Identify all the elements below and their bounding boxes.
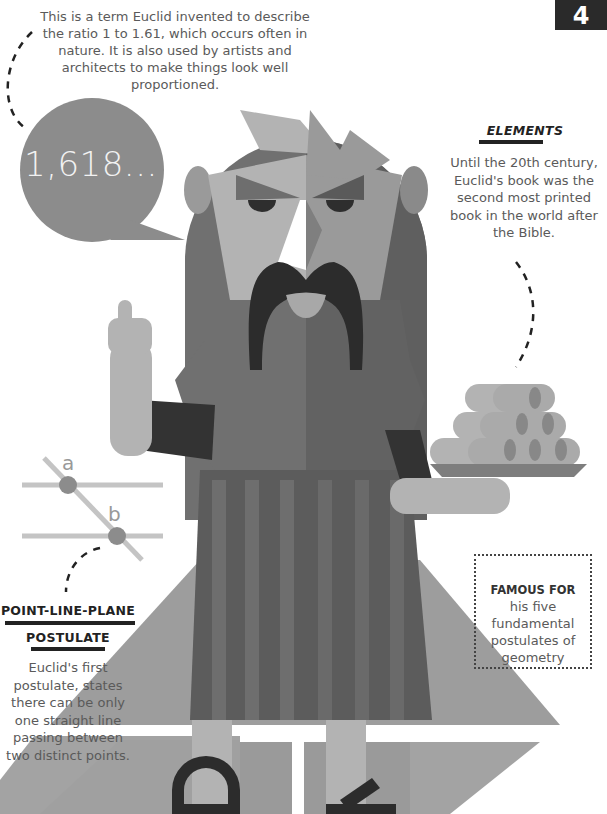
elements-description: Until the 20th century, Euclid's book wa… (444, 154, 604, 242)
dashed-connector-elements (516, 262, 533, 367)
postulate-description: Euclid's first postulate, states there c… (0, 659, 136, 764)
postulate-heading-line2: POSTULATE (0, 630, 136, 645)
postulate-underline-1 (5, 621, 135, 625)
page-number-badge: 4 (555, 0, 607, 30)
right-ear (400, 166, 428, 214)
famous-for-description: his five fundamental postulates of geome… (474, 598, 592, 666)
elements-underline (479, 140, 543, 144)
postulate-heading-line1: POINT-LINE-PLANE (0, 603, 136, 618)
golden-ratio-description: This is a term Euclid invented to descri… (40, 8, 310, 93)
left-ear (184, 166, 212, 214)
point-line-diagram (22, 458, 163, 560)
postulate-underline-2 (31, 647, 105, 651)
scrolls-plate (430, 384, 587, 477)
elements-heading: ELEMENTS (470, 123, 580, 138)
diagram-label-b: b (108, 502, 121, 526)
diagram-label-a: a (62, 451, 74, 475)
famous-for-heading: FAMOUS FOR (474, 583, 592, 597)
point-b (108, 527, 126, 545)
face (208, 110, 402, 300)
dashed-connector-golden (8, 32, 32, 128)
point-a (59, 476, 77, 494)
golden-ratio-value: 1,618... (24, 144, 154, 184)
dashed-connector-postulate (66, 548, 100, 592)
